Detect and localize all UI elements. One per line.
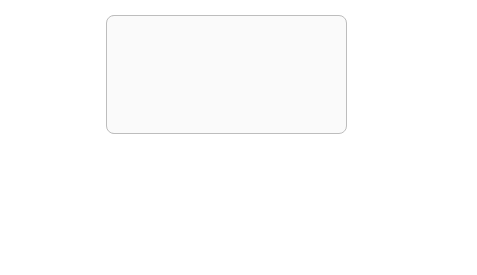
counter-example-generation-group <box>106 15 347 134</box>
